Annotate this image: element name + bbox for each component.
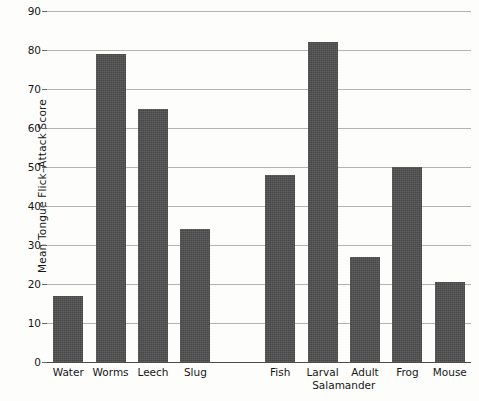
y-tick-label: 40: [28, 200, 41, 212]
y-tick-label: 60: [28, 122, 41, 134]
y-tick-label: 0: [34, 356, 41, 368]
x-tick-label-mouse: Mouse: [423, 366, 477, 378]
y-tick-label: 70: [28, 83, 41, 95]
y-tick-label: 30: [28, 239, 41, 251]
bar-larval: [308, 42, 338, 362]
y-tick-label: 90: [28, 5, 41, 17]
bar-mouse: [435, 282, 465, 362]
bar-frog: [392, 167, 422, 362]
y-tick-label: 80: [28, 44, 41, 56]
bar-slug: [180, 229, 210, 362]
x-axis-labels: WaterWormsLeechSlugFishLarvalAdultFrogMo…: [47, 366, 471, 401]
y-tick-mark: [42, 362, 47, 363]
x-group-label-salamander: Salamander: [284, 379, 404, 391]
y-tick-label: 10: [28, 317, 41, 329]
bar-leech: [138, 109, 168, 363]
plot-area: 0102030405060708090: [47, 11, 471, 362]
y-tick-label: 20: [28, 278, 41, 290]
bar-chart: Mean Tongue Flick–Attack Score 010203040…: [0, 0, 479, 401]
bars-layer: [47, 11, 471, 362]
axis-baseline: [47, 362, 471, 363]
bar-worms: [96, 54, 126, 362]
y-tick-label: 50: [28, 161, 41, 173]
bar-water: [53, 296, 83, 362]
x-tick-label-slug: Slug: [168, 366, 222, 378]
bar-fish: [265, 175, 295, 362]
bar-adult: [350, 257, 380, 362]
